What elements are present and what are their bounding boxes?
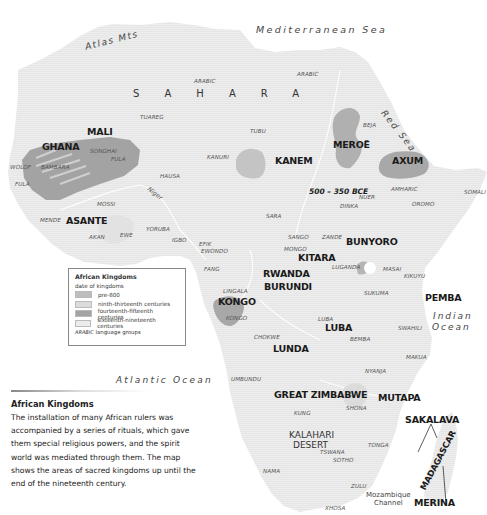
lang-kung: KUNG	[294, 410, 311, 416]
lang-wolof: WOLOF	[10, 164, 31, 170]
label-mozambique-channel-2: Channel	[374, 499, 403, 508]
lang-bemba: BEMBA	[350, 336, 370, 342]
kingdom-merina: MERINA	[414, 497, 455, 508]
region-kanem	[236, 149, 265, 179]
kingdom-ghana: GHANA	[42, 141, 79, 152]
lake-victoria	[364, 262, 376, 274]
caption-body: The installation of many African rulers …	[11, 411, 196, 490]
kingdom-luba: LUBA	[325, 322, 352, 333]
kingdom-pemba: PEMBA	[425, 292, 462, 303]
lang-chokwe: CHOKWE	[254, 334, 280, 340]
lang-dinka: DINKA	[340, 203, 358, 209]
lang-akan: AKAN	[89, 234, 105, 240]
legend-item: pre-800	[75, 290, 179, 300]
label-atlantic-ocean: Atlantic Ocean	[116, 375, 213, 385]
kingdom-mutapa: MUTAPA	[378, 392, 421, 403]
lang-sango: SANGO	[288, 234, 309, 240]
lang-bambara: BAMBARA	[41, 164, 70, 170]
lang-sukuma: SUKUMA	[364, 290, 389, 296]
lang-mongo: MONGO	[284, 246, 307, 252]
kingdom-lunda: LUNDA	[273, 343, 309, 354]
lang-oromo: OROMO	[412, 201, 434, 207]
lang-swahili: SWAHILI	[398, 325, 422, 331]
lang-ewe: EWE	[120, 232, 133, 238]
legend-title: African Kingdoms	[75, 273, 179, 280]
lang-arabic-east: ARABIC	[297, 71, 319, 77]
lang-kikuyu: KIKUYU	[404, 273, 425, 279]
legend-swatch-pre-800	[75, 291, 92, 298]
lang-xhosa: XHOSA	[325, 505, 345, 511]
lang-tubu: TUBU	[250, 128, 266, 134]
lang-luganda: LUGANDA	[332, 264, 360, 270]
lang-songhai: SONGHAI	[90, 148, 117, 154]
kingdom-sakalava: SAKALAVA	[405, 414, 459, 425]
lang-umbundu: UMBUNDU	[231, 376, 261, 382]
kingdom-kitara: KITARA	[298, 252, 335, 263]
kingdom-bunyoro: BUNYORO	[346, 236, 398, 247]
legend-swatch-16th-19th	[75, 320, 91, 327]
lang-nuer: NUER	[359, 194, 375, 200]
label-indian-ocean-1: Indian	[433, 311, 473, 321]
lang-amharic: AMHARIC	[391, 186, 418, 192]
lang-efik: EFIK	[199, 241, 211, 247]
lang-masai: MASAI	[383, 266, 401, 272]
lang-zulu: ZULU	[351, 483, 367, 489]
legend-label: sixteenth-nineteenth centuries	[97, 317, 179, 329]
kingdom-mali: MALI	[87, 126, 113, 137]
lang-somali: SOMALI	[464, 189, 486, 195]
map-caption: African Kingdoms The installation of man…	[11, 393, 196, 490]
lang-zande: ZANDE	[322, 234, 342, 240]
lang-shona: SHONA	[346, 405, 367, 411]
lang-sara: SARA	[266, 213, 282, 219]
kingdom-kongo: KONGO	[218, 296, 256, 307]
legend-item: sixteenth-nineteenth centuries	[75, 319, 179, 329]
lang-kanuri: KANURI	[207, 154, 229, 160]
label-indian-ocean-2: Ocean	[432, 322, 471, 332]
legend-language-sample: ARABIC	[75, 329, 94, 335]
lang-fula-north: FULA	[111, 156, 126, 162]
lang-mossi: MOSSI	[97, 201, 115, 207]
label-mediterranean-sea: Mediterranean Sea	[256, 24, 387, 35]
kingdom-rwanda: RWANDA	[263, 268, 310, 279]
lang-nyanja: NYANJA	[365, 368, 386, 374]
caption-divider	[11, 390, 151, 392]
label-sahara: SAHARA	[133, 88, 324, 99]
kingdom-great-zimbabwe: GREAT ZIMBABWE	[274, 389, 367, 400]
lang-fula-west: FULA	[15, 181, 30, 187]
lang-beja: BEJA	[363, 122, 376, 128]
legend-swatch-9th-13th	[75, 301, 92, 308]
caption-title: African Kingdoms	[11, 399, 196, 409]
lang-nama: NAMA	[263, 468, 280, 474]
lang-kongo: KONGO	[226, 315, 247, 321]
legend-language-groups: ARABIC language groups	[75, 329, 179, 335]
label-kalahari-1: KALAHARI	[289, 430, 334, 440]
legend-swatch-14th-15th	[75, 310, 92, 317]
lang-tonga: TONGA	[368, 442, 389, 448]
map-legend: African Kingdoms date of kingdoms pre-80…	[68, 268, 186, 346]
lang-fang: FANG	[204, 266, 220, 272]
legend-language-label: language groups	[95, 329, 140, 335]
kingdom-meroe: MEROË	[333, 139, 370, 150]
kingdom-kanem: KANEM	[275, 155, 313, 166]
legend-label: pre-800	[98, 292, 120, 298]
lang-hausa: HAUSA	[160, 173, 180, 179]
kingdom-asante: ASANTE	[66, 215, 107, 226]
legend-subtitle: date of kingdoms	[75, 283, 179, 289]
lang-lingala: LINGALA	[223, 288, 248, 294]
lang-yoruba: YORUBA	[146, 226, 170, 232]
lang-arabic-west: ARABIC	[194, 78, 216, 84]
lang-luba: LUBA	[318, 316, 333, 322]
lang-ewondo: EWONDO	[201, 248, 228, 254]
lang-mende: MENDE	[40, 217, 61, 223]
lang-tswana: TSWANA	[320, 449, 345, 455]
lang-sotho: SOTHO	[333, 457, 353, 463]
kingdom-burundi: BURUNDI	[264, 281, 312, 292]
lang-igbo: IGBO	[172, 237, 187, 243]
lang-makua: MAKUA	[406, 354, 427, 360]
lang-tuareg: TUAREG	[140, 114, 164, 120]
legend-label: ninth-thirteenth centuries	[98, 301, 170, 307]
kingdom-axum: AXUM	[392, 155, 423, 166]
